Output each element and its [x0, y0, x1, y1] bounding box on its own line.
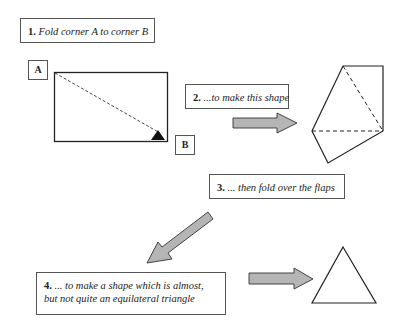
- step-1-box: 1. Fold corner A to corner B: [20, 18, 155, 43]
- arrow-diagonal-down-left: [147, 212, 213, 263]
- step-4-text-line-1: ... to make a shape which is almost,: [55, 280, 204, 291]
- paper-rectangle: [55, 73, 168, 142]
- corner-b-label: B: [175, 135, 195, 155]
- origami-instructions-diagram: 1. Fold corner A to corner B A B 2. ...t…: [0, 0, 403, 327]
- step-2-number: 2.: [193, 92, 201, 103]
- step-2-box: 2. ...to make this shape: [185, 84, 289, 109]
- corner-a-label: A: [28, 60, 48, 80]
- step-4-line-2: but not quite an equilateral triangle: [44, 292, 225, 305]
- step-3-box: 3. ... then fold over the flaps: [209, 174, 345, 199]
- pentagon-fold-diagonal: [343, 66, 383, 131]
- arrow-right-1: [233, 113, 297, 133]
- equilateral-triangle: [312, 247, 376, 303]
- step-4-number: 4.: [44, 280, 52, 291]
- corner-b-triangle: [151, 130, 165, 140]
- arrow-right-2: [249, 268, 313, 289]
- step-3-text: ... then fold over the flaps: [228, 182, 335, 193]
- step-3-number: 3.: [217, 182, 225, 193]
- step-4-text-line-2: but not quite an equilateral triangle: [44, 293, 195, 304]
- step-1-number: 1.: [28, 26, 36, 37]
- step-2-text: ...to make this shape: [204, 92, 290, 103]
- step-4-box: 4. ... to make a shape which is almost, …: [36, 272, 226, 315]
- step-4-line-1: 4. ... to make a shape which is almost,: [44, 279, 225, 292]
- step-1-text: Fold corner A to corner B: [39, 26, 149, 37]
- fold-diagonal: [55, 73, 160, 133]
